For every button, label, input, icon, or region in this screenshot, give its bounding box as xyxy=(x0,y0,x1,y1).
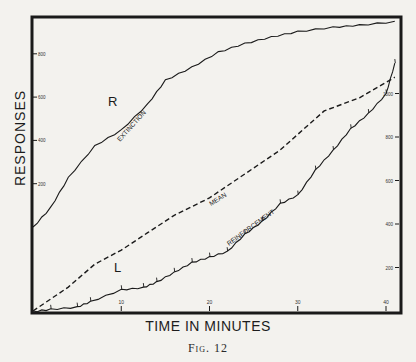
reinforcement-mark xyxy=(368,109,369,113)
reinforcement-mark xyxy=(121,285,122,289)
x-tick-label: 30 xyxy=(295,299,301,305)
x-tick-label: 10 xyxy=(118,299,124,305)
right-tick-label: 400 xyxy=(385,222,393,227)
left-axis-ticks: 200400600800 xyxy=(33,52,46,187)
left-tick-label: 800 xyxy=(38,52,46,57)
series-mean xyxy=(33,77,395,311)
x-tick-label: 40 xyxy=(383,299,389,305)
label-R: R xyxy=(108,94,117,109)
label-L: L xyxy=(114,260,121,275)
label-extinction: EXTINCTION xyxy=(116,109,148,143)
left-tick-label: 600 xyxy=(38,95,46,100)
reinforcement-mark xyxy=(280,199,281,203)
x-axis-title: TIME IN MINUTES xyxy=(0,318,416,334)
series-reinforcement xyxy=(33,63,395,312)
plot-frame xyxy=(32,17,401,313)
reinforcement-mark xyxy=(157,278,158,282)
reinforcement-mark xyxy=(143,283,144,287)
reinforcement-mark xyxy=(395,59,396,63)
y-axis-title: RESPONSES xyxy=(12,78,28,198)
right-tick-label: 800 xyxy=(385,135,393,140)
x-tick-label: 20 xyxy=(207,299,213,305)
left-tick-label: 400 xyxy=(38,138,46,143)
x-axis-ticks: 10203040 xyxy=(118,299,389,311)
curve-annotations: R L EXTINCTION MEAN REINFORCEMENT xyxy=(108,94,275,275)
cumulative-response-chart: 200400600800 2004006008001000 10203040 R… xyxy=(0,0,416,362)
reinforcement-mark xyxy=(210,253,211,257)
reinforcement-mark xyxy=(315,166,316,170)
reinforcement-mark xyxy=(333,146,334,150)
right-tick-label: 200 xyxy=(385,266,393,271)
data-series xyxy=(33,21,395,311)
reinforcement-mark xyxy=(386,90,387,94)
reinforcement-mark xyxy=(227,247,228,251)
label-reinforcement: REINFORCEMENT xyxy=(225,208,275,247)
figure-caption: Fig. 12 xyxy=(0,341,416,356)
left-tick-label: 200 xyxy=(38,182,46,187)
right-axis-ticks: 2004006008001000 xyxy=(383,92,399,271)
reinforcement-mark xyxy=(192,258,193,262)
reinforcement-mark xyxy=(174,268,175,272)
right-tick-label: 600 xyxy=(385,179,393,184)
reinforcement-mark xyxy=(298,191,299,195)
reinforcement-mark xyxy=(51,305,52,309)
label-mean: MEAN xyxy=(208,191,228,207)
reinforcement-mark xyxy=(90,297,91,301)
reinforcement-mark xyxy=(351,124,352,128)
reinforcement-mark xyxy=(77,303,78,307)
